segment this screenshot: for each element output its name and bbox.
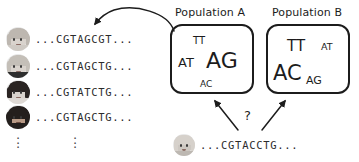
population-b-allele-ac: AC	[273, 63, 302, 84]
population-b-allele-ag: AG	[306, 75, 322, 86]
sequence-text-2: ...CGTAGCTG...	[35, 60, 133, 72]
individual-row-4: ...CGTAGCTG...	[6, 104, 133, 130]
sequence-text-4: ...CGTAGCTG...	[35, 111, 133, 123]
unknown-individual-row: ...CGTACCTG...	[173, 134, 298, 156]
population-b-label: Population B	[272, 6, 342, 19]
assignment-arrow-to-population-b	[262, 101, 285, 130]
population-a-box: TT AT AG AC	[170, 24, 254, 94]
avatar-unknown-person	[173, 134, 195, 156]
question-mark-annotation: ?	[244, 108, 251, 123]
population-a-allele-ac: AC	[200, 80, 212, 89]
avatar-person-4	[6, 105, 30, 129]
avatar-person-3	[6, 80, 30, 104]
avatar-person-1	[6, 27, 30, 51]
sequence-text-3: ...CGTATCTG...	[35, 86, 133, 98]
sequence-text-1: ...CGTAGCGT...	[35, 33, 133, 45]
ellipsis-avatar-column: ...	[12, 133, 24, 147]
individual-row-3: ...CGTATCTG...	[6, 79, 133, 105]
population-b-box: TT AT AC AG	[266, 24, 350, 94]
population-a-allele-ag: AG	[206, 50, 238, 72]
population-a-label: Population A	[175, 6, 245, 19]
figure-canvas: ...CGTAGCGT... ...CGTAGCTG... ...CGTATCT…	[0, 0, 359, 162]
assignment-arrow-to-population-a	[215, 101, 238, 130]
population-a-allele-at: AT	[178, 56, 194, 69]
avatar-person-2	[6, 54, 30, 78]
population-b-allele-at: AT	[321, 42, 333, 52]
population-a-allele-tt: TT	[193, 36, 205, 46]
population-b-allele-tt: TT	[287, 39, 305, 54]
ellipsis-sequence-column: ...	[69, 133, 81, 147]
unknown-sequence-text: ...CGTACCTG...	[200, 139, 298, 151]
individual-row-2: ...CGTAGCTG...	[6, 53, 133, 79]
individual-row-1: ...CGTAGCGT...	[6, 26, 133, 52]
